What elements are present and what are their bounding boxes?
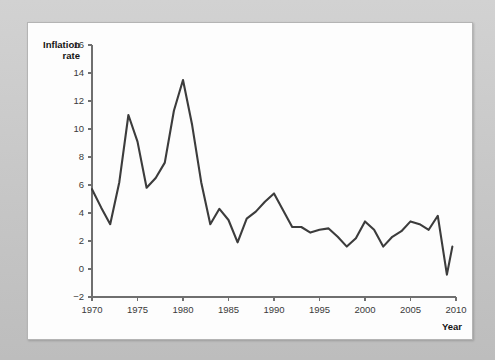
y-axis-tick-label: 0	[79, 263, 84, 274]
y-axis-tick-label: 8	[79, 151, 84, 162]
x-axis-tick-label: 1990	[263, 304, 284, 315]
x-axis-tick-label: 1975	[127, 304, 148, 315]
y-axis-tick-label: 4	[79, 207, 84, 218]
series-line-inflation-rate	[92, 80, 452, 275]
chart-axis-titles: InflationrateYear	[43, 39, 462, 332]
y-axis-tick-label: 14	[73, 67, 84, 78]
chart-plot-area: −202468101214161970197519801985199019952…	[28, 23, 472, 339]
x-axis-tick-label: 2005	[400, 304, 421, 315]
y-axis-tick-label: 2	[79, 235, 84, 246]
y-axis-title-line2: rate	[63, 50, 80, 61]
x-axis-tick-label: 1970	[81, 304, 102, 315]
y-axis-tick-label: 12	[73, 95, 84, 106]
y-axis-title-line1: Inflation	[43, 39, 80, 50]
x-axis-tick-label: 1995	[309, 304, 330, 315]
chart-card: −202468101214161970197519801985199019952…	[27, 22, 473, 340]
y-axis-tick-label: 10	[73, 123, 84, 134]
x-axis-tick-label: 2000	[354, 304, 375, 315]
chart-axes: −202468101214161970197519801985199019952…	[73, 39, 466, 315]
x-axis-tick-label: 1980	[172, 304, 193, 315]
screenshot-root: −202468101214161970197519801985199019952…	[0, 0, 495, 360]
chart-series	[92, 80, 452, 275]
y-axis-tick-label: −2	[73, 291, 84, 302]
y-axis-tick-label: 6	[79, 179, 84, 190]
x-axis-tick-label: 1985	[218, 304, 239, 315]
inflation-line-chart: −202468101214161970197519801985199019952…	[28, 23, 472, 339]
x-axis-title: Year	[442, 321, 462, 332]
x-axis-tick-label: 2010	[445, 304, 466, 315]
